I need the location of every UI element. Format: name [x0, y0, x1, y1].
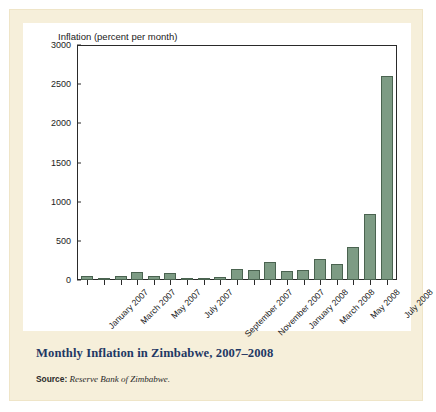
bar-slot [362, 45, 379, 280]
bar [381, 76, 393, 280]
x-axis-tick-mark [337, 280, 338, 285]
bar [331, 264, 343, 280]
bar-slot [179, 45, 196, 280]
bar-slot [96, 45, 113, 280]
x-axis-tick-mark [121, 280, 122, 285]
bar-slot [112, 45, 129, 280]
x-axis-tick-mark [87, 280, 88, 285]
x-axis-tick-mark [170, 280, 171, 285]
x-axis-tick-mark [237, 280, 238, 285]
y-axis-tick-label: 3000 [51, 40, 77, 50]
bar-series [77, 45, 397, 280]
bar [364, 214, 376, 280]
y-axis-tick-label: 2000 [51, 118, 77, 128]
x-axis-tick-mark [320, 280, 321, 285]
chart-card: Inflation (percent per month) 0500100015… [23, 23, 411, 331]
source-text: Reserve Bank of Zimbabwe. [70, 374, 170, 384]
bar-slot [212, 45, 229, 280]
bar-slot [245, 45, 262, 280]
bar [314, 259, 326, 280]
bar-slot [312, 45, 329, 280]
bar-slot [345, 45, 362, 280]
bar [131, 272, 143, 280]
bar [264, 262, 276, 280]
x-axis-tick-mark [204, 280, 205, 285]
bar [281, 271, 293, 280]
bar-slot [229, 45, 246, 280]
x-axis-tick-mark [154, 280, 155, 285]
bar-slot [279, 45, 296, 280]
bar-slot [129, 45, 146, 280]
x-axis-tick-mark [254, 280, 255, 285]
x-axis-tick-mark [137, 280, 138, 285]
bar-slot [262, 45, 279, 280]
x-axis-tick-label: July 2007 [202, 287, 235, 320]
bar [231, 269, 243, 280]
bar-slot [162, 45, 179, 280]
y-axis-tick-label: 1000 [51, 197, 77, 207]
plot-area: 050010001500200025003000 January 2007Mar… [77, 45, 397, 280]
figure-panel: Inflation (percent per month) 0500100015… [9, 9, 423, 401]
x-axis-tick-mark [353, 280, 354, 285]
bar-slot [195, 45, 212, 280]
y-axis-tick-label: 2500 [51, 79, 77, 89]
bar [164, 273, 176, 280]
x-axis-tick-mark [287, 280, 288, 285]
bar [248, 270, 260, 280]
bar-slot [378, 45, 395, 280]
y-axis-tick-label: 1500 [51, 158, 77, 168]
x-axis-tick-mark [370, 280, 371, 285]
x-axis-tick-label: July 2008 [401, 287, 434, 320]
figure-caption: Monthly Inflation in Zimbabwe, 2007–2008 [36, 346, 273, 361]
x-axis-tick-mark [220, 280, 221, 285]
y-axis-tick-label: 500 [56, 236, 77, 246]
bar [347, 247, 359, 280]
x-axis-tick-mark [270, 280, 271, 285]
bar-slot [328, 45, 345, 280]
bar-slot [295, 45, 312, 280]
x-axis-tick-mark [187, 280, 188, 285]
x-axis-tick-mark [104, 280, 105, 285]
bar-slot [79, 45, 96, 280]
bar [297, 270, 309, 280]
x-axis-tick-mark [304, 280, 305, 285]
y-axis-tick-label: 0 [66, 275, 77, 285]
source-label: Source: [36, 374, 67, 384]
x-axis-tick-mark [387, 280, 388, 285]
figure-source: Source: Reserve Bank of Zimbabwe. [36, 374, 170, 384]
bar-slot [146, 45, 163, 280]
